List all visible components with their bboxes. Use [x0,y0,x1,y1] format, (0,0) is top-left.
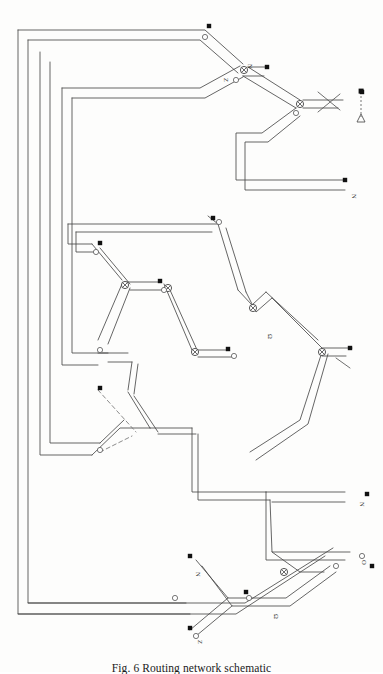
outer-return-rails [18,30,333,614]
terminal-label: N [195,572,202,577]
figure-caption: Fig. 6 Routing network schematic [0,660,383,674]
terminal-label: N [247,64,254,69]
diagram-linework [18,30,352,636]
dashed-bypass [98,390,136,452]
top-right-loop [236,108,345,190]
terminal-label: Ω [267,334,274,339]
terminal-label: Z [197,640,204,644]
figure-caption-text: Fig. 6 Routing network schematic [112,662,271,674]
legend-square-icon [359,89,364,94]
terminal-label: Ω [273,614,280,619]
terminal-label-group: N Ω N O Ω Z N Z N [195,64,368,644]
terminal-label: Z [223,78,230,82]
terminal-label: N [359,502,366,507]
top-branch-channel [18,30,343,112]
bottom-branch-channel [18,428,350,636]
terminal-label: O [361,560,368,565]
legend-triangle-icon [357,114,365,122]
circle-nodes [93,34,364,638]
terminal-label: N [351,194,358,199]
mid-branch-channel [68,216,352,460]
square-terminal-markers [98,24,374,630]
